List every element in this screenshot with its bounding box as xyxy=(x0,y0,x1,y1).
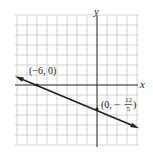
arrow-left-icon xyxy=(15,76,24,82)
y-axis-label: y xyxy=(93,5,99,17)
point-label-x-intercept: (−6, 0) xyxy=(29,65,56,77)
grid xyxy=(15,15,138,145)
arrow-right-icon xyxy=(130,123,139,129)
svg-text:): ) xyxy=(133,99,136,111)
point-y-intercept xyxy=(95,107,98,110)
svg-text:(0, −: (0, − xyxy=(101,99,120,111)
fraction-numerator: 12 xyxy=(125,96,133,104)
point-label-y-intercept: (0, − 12 5 ) xyxy=(101,96,136,113)
point-x-intercept xyxy=(35,83,38,86)
x-axis-label: x xyxy=(139,78,145,90)
fraction-denominator: 5 xyxy=(127,105,131,113)
coordinate-graph: x y (−6, 0) (0, − 12 5 ) xyxy=(0,0,153,156)
